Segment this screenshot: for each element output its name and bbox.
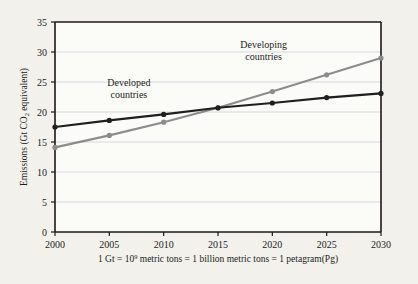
y-tick-label-25: 25 <box>37 77 47 88</box>
y-tick-label-20: 20 <box>37 107 47 118</box>
x-tick-label-2010: 2010 <box>154 239 174 250</box>
x-tick-label-2015: 2015 <box>208 239 228 250</box>
chart-canvas: 05101520253035 2000200520102015202020252… <box>0 0 418 284</box>
data-point-developing-countries-2020 <box>270 89 275 94</box>
y-tick-label-0: 0 <box>42 227 47 238</box>
data-point-developed-countries-2025 <box>324 95 329 100</box>
y-tick-label-15: 15 <box>37 137 47 148</box>
y-tick-label-35: 35 <box>37 17 47 28</box>
developing-countries-label: Developingcountries <box>240 39 287 62</box>
plot-area-background <box>55 22 381 232</box>
y-tick-label-30: 30 <box>37 47 47 58</box>
x-tick-label-2030: 2030 <box>371 239 391 250</box>
caption-after: metric tons = 1 billion metric tons = 1 … <box>137 254 338 265</box>
x-tick-label-2020: 2020 <box>262 239 282 250</box>
data-point-developed-countries-2010 <box>161 112 166 117</box>
data-point-developing-countries-2010 <box>161 120 166 125</box>
caption-before: 1 Gt = 10 <box>98 254 134 264</box>
developing-countries-label-line2: countries <box>245 51 282 62</box>
y-axis-title: Emissions (Gt CO2 equivalent) <box>19 68 30 186</box>
x-tick-label-2000: 2000 <box>45 239 65 250</box>
developed-countries-label-line2: countries <box>111 89 148 100</box>
data-point-developed-countries-2015 <box>215 105 220 110</box>
x-tick-label-2025: 2025 <box>317 239 337 250</box>
developed-countries-label: Developedcountries <box>107 77 150 100</box>
y-axis-title-main: Emissions (Gt CO <box>19 116 30 186</box>
emissions-line-chart: 05101520253035 2000200520102015202020252… <box>0 0 418 284</box>
data-point-developed-countries-2030 <box>378 91 383 96</box>
data-point-developed-countries-2000 <box>52 124 57 129</box>
y-tick-label-5: 5 <box>42 197 47 208</box>
developed-countries-label-line1: Developed <box>107 77 150 88</box>
data-point-developing-countries-2000 <box>52 145 57 150</box>
y-axis-title-tail: equivalent) <box>19 68 30 113</box>
x-tick-label-2005: 2005 <box>99 239 119 250</box>
y-tick-label-10: 10 <box>37 167 47 178</box>
chart-caption: 1 Gt = 109 metric tons = 1 billion metri… <box>98 253 338 265</box>
data-point-developing-countries-2030 <box>378 55 383 60</box>
developing-countries-label-line1: Developing <box>240 39 287 50</box>
data-point-developed-countries-2020 <box>270 100 275 105</box>
data-point-developed-countries-2005 <box>107 118 112 123</box>
data-point-developing-countries-2025 <box>324 72 329 77</box>
data-point-developing-countries-2005 <box>107 133 112 138</box>
